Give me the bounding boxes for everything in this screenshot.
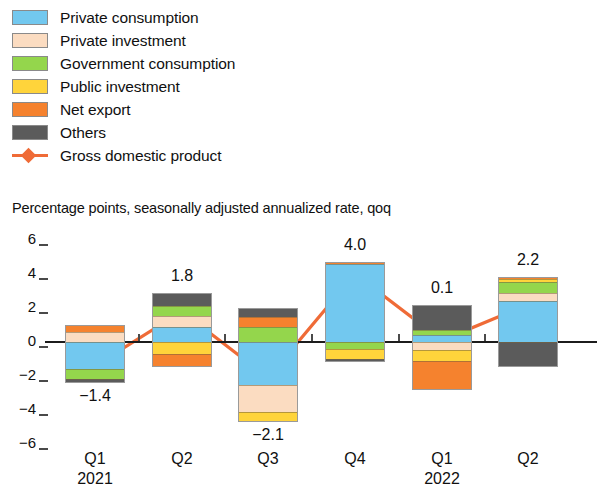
bar-segment xyxy=(238,342,298,385)
bar-segment xyxy=(498,293,558,302)
y-tick-label: 6 xyxy=(2,230,36,247)
bar-segment xyxy=(65,379,125,382)
bar-segment xyxy=(238,412,298,422)
x-axis-quarter: Q1 xyxy=(84,450,105,467)
y-tick-label: −6 xyxy=(2,434,36,451)
bar-segment xyxy=(498,277,558,279)
bar-segment xyxy=(152,342,212,354)
bar-segment xyxy=(498,342,558,368)
bar-segment xyxy=(238,308,298,317)
bar-segment xyxy=(498,301,558,342)
bar-segment xyxy=(498,279,558,282)
gdp-value-label: 4.0 xyxy=(310,236,400,254)
stacked-bar[interactable] xyxy=(498,277,558,367)
x-axis-label: Q2 xyxy=(137,450,227,468)
bar-segment xyxy=(238,385,298,412)
y-tick-mark xyxy=(39,278,48,280)
bar-segment xyxy=(152,316,212,326)
bar-segment xyxy=(65,325,125,332)
stacked-bar[interactable] xyxy=(412,305,472,390)
y-tick-label: 4 xyxy=(2,264,36,281)
y-tick-label: −4 xyxy=(2,400,36,417)
y-tick-label: 2 xyxy=(2,298,36,315)
bar-segment xyxy=(412,342,472,351)
gdp-value-label: 0.1 xyxy=(397,279,487,297)
y-tick-mark xyxy=(39,414,48,416)
bar-segment xyxy=(152,306,212,316)
x-axis-label: Q4 xyxy=(310,450,400,468)
bar-segment xyxy=(412,350,472,360)
bar-segment xyxy=(152,354,212,368)
y-tick-mark xyxy=(39,380,48,382)
bar-segment xyxy=(412,361,472,390)
x-axis-quarter: Q1 xyxy=(431,450,452,467)
y-tick-label: 0 xyxy=(2,332,36,349)
bar-segment xyxy=(412,305,472,331)
gdp-value-label: −2.1 xyxy=(223,426,313,444)
plot-area: 6420−2−4−6−1.4Q120211.8Q2−2.1Q34.0Q40.1Q… xyxy=(0,0,605,491)
x-axis-quarter: Q4 xyxy=(344,450,365,467)
stacked-bar[interactable] xyxy=(65,325,125,383)
y-tick-mark xyxy=(39,346,48,348)
y-tick-mark xyxy=(39,244,48,246)
x-axis-label: Q12021 xyxy=(50,450,140,488)
bar-segment xyxy=(325,342,385,349)
stacked-bar[interactable] xyxy=(325,262,385,362)
bar-segment xyxy=(152,327,212,342)
x-axis-quarter: Q2 xyxy=(517,450,538,467)
x-axis-quarter: Q3 xyxy=(257,450,278,467)
gdp-line-overlay xyxy=(0,0,605,491)
x-axis-label: Q12022 xyxy=(397,450,487,488)
stacked-bar[interactable] xyxy=(152,293,212,368)
x-tick-mark xyxy=(398,334,400,341)
gdp-value-label: 1.8 xyxy=(137,267,227,285)
bar-segment xyxy=(325,359,385,362)
bar-segment xyxy=(325,264,385,342)
x-tick-mark xyxy=(224,334,226,341)
bar-segment xyxy=(152,293,212,307)
y-tick-mark xyxy=(39,312,48,314)
stacked-bar[interactable] xyxy=(238,308,298,422)
x-axis-label: Q2 xyxy=(483,450,573,468)
gdp-contribution-chart: Private consumptionPrivate investmentGov… xyxy=(0,0,605,491)
bar-segment xyxy=(238,327,298,342)
bar-segment xyxy=(498,282,558,292)
bar-segment xyxy=(65,369,125,379)
x-axis-year: 2021 xyxy=(50,470,140,488)
bar-segment xyxy=(65,332,125,342)
bar-segment xyxy=(325,349,385,359)
x-tick-mark xyxy=(311,334,313,341)
x-axis-year: 2022 xyxy=(397,470,487,488)
gdp-value-label: 2.2 xyxy=(483,251,573,269)
bar-segment xyxy=(412,330,472,335)
bar-segment xyxy=(325,262,385,264)
bar-segment xyxy=(65,342,125,369)
x-tick-mark xyxy=(138,334,140,341)
bar-segment xyxy=(412,335,472,342)
y-tick-mark xyxy=(39,448,48,450)
gdp-value-label: −1.4 xyxy=(50,387,140,405)
x-tick-mark xyxy=(484,334,486,341)
y-tick-label: −2 xyxy=(2,366,36,383)
x-axis-label: Q3 xyxy=(223,450,313,468)
bar-segment xyxy=(238,317,298,327)
x-axis-quarter: Q2 xyxy=(171,450,192,467)
